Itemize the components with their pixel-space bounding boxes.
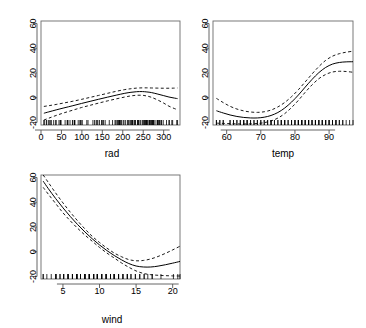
wind-x-tick-label: 10 bbox=[95, 286, 105, 296]
temp-y-tick-label: 60 bbox=[200, 18, 210, 28]
temp-x-tick-label: 60 bbox=[222, 132, 232, 142]
panel-rad-xlabel: rad bbox=[105, 148, 119, 159]
panel-wind: -2002040605101520 wind bbox=[0, 160, 190, 328]
wind-lower-ci-line bbox=[43, 187, 180, 276]
wind-x-tick-label: 5 bbox=[60, 286, 65, 296]
rad-x-tick-label: 50 bbox=[56, 132, 66, 142]
rad-rug bbox=[44, 120, 178, 125]
rad-y-tick-label: 40 bbox=[28, 43, 38, 53]
rad-y-tick-label: -20 bbox=[28, 116, 38, 129]
rad-x-tick-label: 250 bbox=[136, 132, 151, 142]
wind-plot-frame bbox=[41, 175, 180, 279]
figure-canvas: -200204060050100150200250300 rad -200204… bbox=[0, 0, 366, 328]
temp-fit-line bbox=[216, 62, 353, 118]
wind-x-tick-label: 15 bbox=[131, 286, 141, 296]
rad-x-tick-label: 100 bbox=[74, 132, 89, 142]
wind-y-tick-label: 40 bbox=[28, 197, 38, 207]
temp-rug bbox=[216, 120, 353, 125]
wind-y-tick-label: -20 bbox=[28, 270, 38, 283]
rad-curves bbox=[44, 88, 178, 120]
panel-rad-plot-region: -200204060050100150200250300 bbox=[28, 18, 180, 142]
rad-plot-frame bbox=[41, 21, 180, 125]
rad-y-tick-label: 0 bbox=[28, 95, 38, 100]
panel-rad: -200204060050100150200250300 rad bbox=[0, 0, 190, 160]
wind-y-tick-label: 60 bbox=[28, 172, 38, 182]
wind-y-tick-label: 0 bbox=[28, 249, 38, 254]
rad-x-tick-label: 150 bbox=[95, 132, 110, 142]
temp-curves bbox=[216, 51, 353, 124]
panel-wind-svg: -2002040605101520 wind bbox=[0, 160, 190, 328]
rad-x-tick-label: 0 bbox=[38, 132, 43, 142]
rad-fit-line bbox=[44, 92, 178, 114]
temp-y-tick-label: 20 bbox=[200, 68, 210, 78]
rad-y-tick-label: 20 bbox=[28, 68, 38, 78]
temp-x-tick-label: 90 bbox=[324, 132, 334, 142]
panel-rad-svg: -200204060050100150200250300 rad bbox=[0, 0, 190, 160]
panel-temp: -20020406060708090 temp bbox=[183, 0, 366, 160]
wind-y-tick-label: 20 bbox=[28, 222, 38, 232]
temp-x-tick-label: 80 bbox=[290, 132, 300, 142]
wind-rug bbox=[43, 274, 180, 279]
panel-temp-xlabel: temp bbox=[272, 148, 295, 159]
temp-x-tick-label: 70 bbox=[256, 132, 266, 142]
temp-upper-ci-line bbox=[216, 51, 353, 112]
panel-temp-plot-region: -20020406060708090 bbox=[200, 18, 353, 142]
panel-wind-xlabel: wind bbox=[101, 314, 123, 325]
rad-upper-ci-line bbox=[44, 88, 178, 107]
panel-temp-svg: -20020406060708090 temp bbox=[183, 0, 366, 160]
rad-y-tick-label: 60 bbox=[28, 18, 38, 28]
rad-x-tick-label: 200 bbox=[115, 132, 130, 142]
wind-curves bbox=[43, 175, 180, 276]
wind-fit-line bbox=[43, 181, 180, 267]
temp-y-tick-label: -20 bbox=[200, 116, 210, 129]
wind-x-tick-label: 20 bbox=[168, 286, 178, 296]
temp-y-tick-label: 0 bbox=[200, 95, 210, 100]
wind-upper-ci-line bbox=[43, 175, 180, 261]
temp-y-tick-label: 40 bbox=[200, 43, 210, 53]
rad-x-tick-label: 300 bbox=[156, 132, 171, 142]
panel-wind-plot-region: -2002040605101520 bbox=[28, 172, 180, 296]
